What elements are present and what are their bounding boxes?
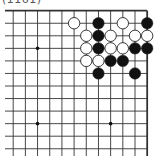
white-stone <box>81 30 92 41</box>
white-stone <box>129 30 140 41</box>
black-stone <box>93 30 104 41</box>
black-stone <box>105 55 116 66</box>
star-point <box>36 122 40 126</box>
black-stone <box>141 18 152 29</box>
white-stone <box>105 30 116 41</box>
black-stone <box>141 43 152 54</box>
white-stone <box>93 55 104 66</box>
white-stone <box>81 43 92 54</box>
white-stone <box>117 18 128 29</box>
black-stone <box>117 55 128 66</box>
go-board <box>0 0 155 156</box>
black-stone <box>129 43 140 54</box>
star-point <box>36 47 40 51</box>
white-stone <box>81 55 92 66</box>
star-point <box>109 122 113 126</box>
white-stone <box>105 43 116 54</box>
black-stone <box>93 68 104 79</box>
black-stone <box>93 43 104 54</box>
white-stone <box>117 43 128 54</box>
black-stone <box>129 68 140 79</box>
white-stone <box>141 30 152 41</box>
board-grid <box>5 11 147 156</box>
white-stone <box>68 18 79 29</box>
black-stone <box>93 18 104 29</box>
